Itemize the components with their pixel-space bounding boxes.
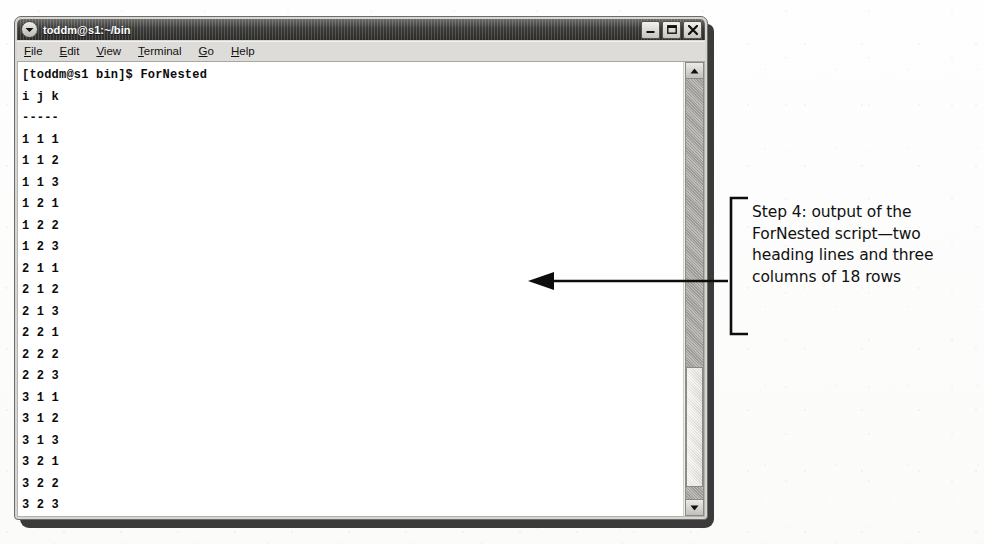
menu-bar[interactable]: File Edit View Terminal Go Help [17,41,705,62]
terminal-line: 3 1 1 [22,388,683,410]
terminal-line: 2 2 2 [22,345,683,367]
maximize-icon[interactable] [662,21,681,39]
terminal-line: 3 2 2 [22,474,683,496]
scroll-down-arrow-icon[interactable] [685,499,704,516]
menu-item-terminal[interactable]: Terminal [138,46,181,58]
menu-item-file[interactable]: File [24,46,43,58]
left-arrow-icon [528,268,728,298]
terminal-line: 3 1 3 [22,431,683,453]
chevron-down-icon[interactable] [21,21,38,38]
menu-item-edit[interactable]: Edit [60,46,80,58]
scrollbar-track-below[interactable] [686,487,703,499]
terminal-line: 2 1 3 [22,302,683,324]
terminal-line: [toddm@s1 bin]$ ForNested [22,65,683,87]
terminal-line: 1 2 3 [22,237,683,259]
close-icon[interactable] [683,21,702,39]
terminal-line: 3 1 2 [22,409,683,431]
terminal-line: 1 1 1 [22,130,683,152]
terminal-line: 1 1 3 [22,173,683,195]
terminal-line: ----- [22,108,683,130]
menu-item-help[interactable]: Help [231,46,255,58]
minimize-icon[interactable] [641,21,660,39]
scrollbar-track-above[interactable] [686,79,703,367]
terminal-line: 2 2 1 [22,323,683,345]
terminal-line: 1 2 2 [22,216,683,238]
menu-item-view[interactable]: View [96,46,121,58]
menu-item-go[interactable]: Go [199,46,214,58]
terminal-line: 2 2 3 [22,366,683,388]
window-controls[interactable] [641,21,703,39]
annotation-text: Step 4: output of the ForNested script—t… [752,202,980,288]
bracket-icon [728,196,750,336]
terminal-line: 1 1 2 [22,151,683,173]
scrollbar-thumb[interactable] [686,367,703,487]
terminal-line: 3 2 1 [22,452,683,474]
scroll-up-arrow-icon[interactable] [685,62,704,79]
terminal-line: i j k [22,87,683,109]
title-bar[interactable]: toddm@s1:~/bin [17,19,705,40]
window-title: toddm@s1:~/bin [43,24,131,36]
terminal-line: 3 2 3 [22,495,683,516]
terminal-line: 1 2 1 [22,194,683,216]
